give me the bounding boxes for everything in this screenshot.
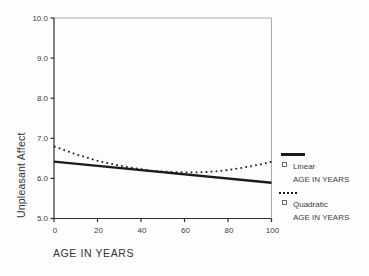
y-tick-label: 10.0 (32, 14, 48, 23)
legend-label-linear: Linear (293, 162, 315, 171)
x-tick-label: 100 (266, 226, 280, 235)
legend: Linear AGE IN YEARS Quadratic AGE IN YEA… (279, 150, 349, 222)
legend-quadratic-line-swatch (279, 192, 297, 194)
x-axis-title: AGE IN YEARS (53, 247, 134, 259)
plot-area: 5.06.07.08.09.010.0020406080100 (0, 0, 369, 276)
x-tick-label: 80 (225, 226, 234, 235)
y-tick-label: 8.0 (37, 94, 49, 103)
legend-square-marker-icon (282, 200, 287, 205)
x-tick-label: 0 (53, 226, 58, 235)
x-tick-label: 20 (94, 226, 103, 235)
x-tick-label: 60 (181, 226, 190, 235)
legend-linear-line-swatch (281, 153, 305, 156)
y-tick-label: 7.0 (37, 134, 49, 143)
quadratic-fit-line (54, 146, 272, 172)
x-tick-label: 40 (138, 226, 147, 235)
legend-item-quadratic: Quadratic (279, 200, 349, 209)
legend-sublabel-linear: AGE IN YEARS (293, 175, 349, 184)
y-tick-label: 5.0 (37, 214, 49, 223)
legend-sublabel-quadratic: AGE IN YEARS (293, 213, 349, 222)
linear-fit-line (54, 162, 272, 183)
y-tick-label: 6.0 (37, 174, 49, 183)
legend-square-marker-icon (282, 162, 287, 167)
y-tick-label: 9.0 (37, 54, 49, 63)
legend-item-linear: Linear (279, 162, 349, 171)
y-axis-title: Unpleasant Affect (15, 132, 27, 218)
chart-figure: 5.06.07.08.09.010.0020406080100 Unpleasa… (0, 0, 369, 276)
legend-label-quadratic: Quadratic (293, 200, 328, 209)
